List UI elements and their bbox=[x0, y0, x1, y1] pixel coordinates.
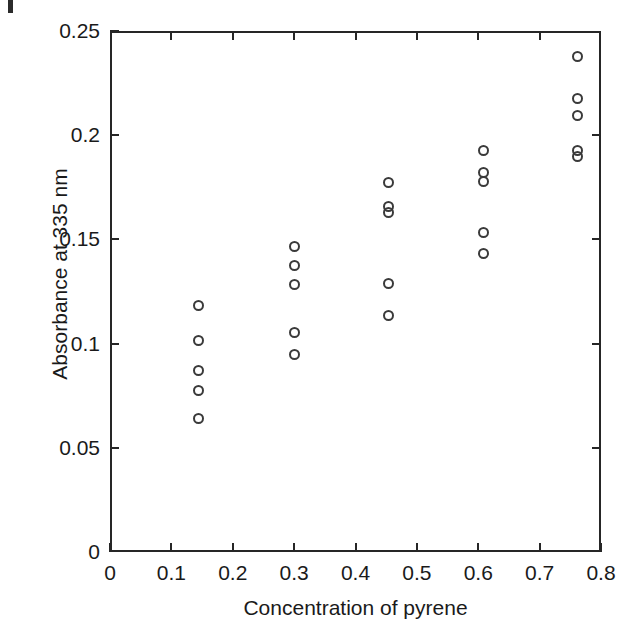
x-axis-tick-label: 0.4 bbox=[321, 562, 391, 583]
data-point bbox=[572, 151, 583, 162]
x-axis-tick bbox=[170, 543, 172, 552]
data-point bbox=[383, 177, 394, 188]
x-axis-tick bbox=[293, 543, 295, 552]
data-point bbox=[478, 248, 489, 259]
y-axis-tick bbox=[110, 30, 119, 32]
data-point bbox=[193, 385, 204, 396]
x-axis-top-tick bbox=[170, 31, 172, 40]
data-point bbox=[478, 176, 489, 187]
y-axis-right-tick bbox=[592, 238, 601, 240]
x-axis-tick-label: 0.7 bbox=[505, 562, 575, 583]
data-point bbox=[289, 327, 300, 338]
x-axis-tick bbox=[109, 543, 111, 552]
x-axis-top-tick bbox=[293, 31, 295, 40]
data-point bbox=[193, 365, 204, 376]
x-axis-tick-label: 0.5 bbox=[382, 562, 452, 583]
x-axis-tick-label: 0.2 bbox=[198, 562, 268, 583]
data-point bbox=[572, 110, 583, 121]
x-axis-tick bbox=[539, 543, 541, 552]
x-axis-top-tick bbox=[416, 31, 418, 40]
scan-artifact-mark bbox=[8, 0, 13, 13]
y-axis-tick-label: 0.25 bbox=[10, 20, 100, 41]
data-point bbox=[193, 335, 204, 346]
x-axis-tick-label: 0.1 bbox=[136, 562, 206, 583]
y-axis-right-tick bbox=[592, 447, 601, 449]
data-point bbox=[572, 51, 583, 62]
data-point bbox=[383, 278, 394, 289]
data-point bbox=[289, 260, 300, 271]
data-point bbox=[383, 310, 394, 321]
data-point bbox=[289, 241, 300, 252]
x-axis-top-tick bbox=[539, 31, 541, 40]
data-point bbox=[289, 349, 300, 360]
x-axis-tick bbox=[232, 543, 234, 552]
x-axis-title: Concentration of pyrene bbox=[110, 596, 601, 620]
x-axis-tick-label: 0.8 bbox=[566, 562, 636, 583]
y-axis-tick bbox=[110, 134, 119, 136]
y-axis-tick bbox=[110, 238, 119, 240]
x-axis-tick-label: 0.3 bbox=[259, 562, 329, 583]
x-axis-tick bbox=[416, 543, 418, 552]
y-axis-right-tick bbox=[592, 134, 601, 136]
y-axis-tick bbox=[110, 447, 119, 449]
x-axis-tick bbox=[600, 543, 602, 552]
data-point bbox=[289, 279, 300, 290]
x-axis-tick bbox=[477, 543, 479, 552]
x-axis-top-tick bbox=[232, 31, 234, 40]
data-point bbox=[478, 227, 489, 238]
scatter-plot-figure: 00.10.20.30.40.50.60.70.8 00.050.10.150.… bbox=[0, 0, 636, 631]
plot-data-area bbox=[110, 31, 601, 552]
x-axis-tick-label: 0.6 bbox=[443, 562, 513, 583]
y-axis-title: Absorbance at 335 nm bbox=[48, 104, 72, 444]
data-point bbox=[383, 207, 394, 218]
y-axis-tick bbox=[110, 343, 119, 345]
data-point bbox=[572, 93, 583, 104]
data-point bbox=[193, 413, 204, 424]
x-axis-top-tick bbox=[355, 31, 357, 40]
x-axis-top-tick bbox=[477, 31, 479, 40]
x-axis-tick-label: 0 bbox=[75, 562, 145, 583]
data-point bbox=[193, 300, 204, 311]
data-point bbox=[478, 145, 489, 156]
y-axis-right-tick bbox=[592, 343, 601, 345]
x-axis-tick bbox=[355, 543, 357, 552]
y-axis-tick-label: 0 bbox=[10, 541, 100, 562]
